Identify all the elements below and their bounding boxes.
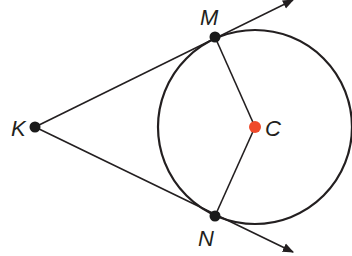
label-c: C	[265, 116, 281, 141]
ray-kn	[35, 127, 293, 252]
radius-cn	[215, 127, 255, 216]
point-k	[30, 122, 41, 133]
label-n: N	[198, 226, 214, 251]
point-m	[210, 32, 221, 43]
tangent-diagram: K M N C	[0, 0, 352, 256]
label-m: M	[200, 5, 219, 30]
point-c	[249, 121, 261, 133]
radius-cm	[215, 37, 255, 127]
ray-km	[35, 0, 293, 127]
label-k: K	[11, 116, 27, 141]
point-n	[210, 211, 221, 222]
